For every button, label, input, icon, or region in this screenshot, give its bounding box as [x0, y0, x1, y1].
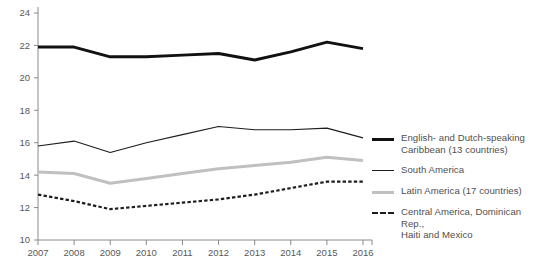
- legend-item-central-america: Central America, Dominican Rep.,Haiti an…: [372, 206, 536, 241]
- x-axis-tick-label: 2015: [316, 247, 337, 258]
- x-axis-tick-label: 2009: [100, 247, 121, 258]
- series-line: [38, 42, 363, 60]
- legend-label-caribbean-line1: English- and Dutch-speaking: [401, 132, 525, 143]
- x-axis-tick-label: 2014: [280, 247, 301, 258]
- y-axis-tick-label: 10: [19, 234, 30, 245]
- legend-swatch-caribbean-icon: [372, 133, 394, 145]
- legend-label-south-america: South America: [401, 164, 464, 176]
- legend-label-central-america-line2: Haiti and Mexico: [401, 229, 473, 240]
- x-axis-tick-label: 2016: [352, 247, 373, 258]
- legend-swatch-latin-america-icon: [372, 186, 394, 198]
- x-axis-tick-label: 2011: [172, 247, 192, 258]
- legend-label-latin-america: Latin America (17 countries): [401, 185, 522, 197]
- y-axis-tick-label: 18: [19, 105, 30, 116]
- data-series-group: [38, 42, 363, 209]
- y-axis-tick-label: 20: [19, 72, 30, 83]
- legend-label-caribbean: English- and Dutch-speakingCaribbean (13…: [401, 132, 525, 155]
- line-chart: 1012141618202224 20072008200920102011201…: [0, 0, 536, 271]
- legend-label-central-america-line1: Central America, Dominican Rep.,: [401, 206, 521, 229]
- legend-label-caribbean-line2: Caribbean (13 countries): [401, 144, 508, 155]
- legend-swatch-south-america-icon: [372, 165, 394, 177]
- y-axis-tick-label: 22: [19, 40, 30, 51]
- series-line: [38, 127, 363, 153]
- series-line: [38, 182, 363, 210]
- legend-label-central-america: Central America, Dominican Rep.,Haiti an…: [401, 206, 536, 241]
- y-axis-tick-label: 14: [19, 170, 30, 181]
- y-axis-tick-label: 12: [19, 202, 30, 213]
- legend-item-latin-america: Latin America (17 countries): [372, 185, 536, 197]
- y-axis: 1012141618202224: [19, 7, 38, 245]
- x-axis-tick-label: 2012: [208, 247, 229, 258]
- x-axis-tick-label: 2013: [244, 247, 265, 258]
- legend-item-south-america: South America: [372, 164, 536, 176]
- y-axis-tick-label: 16: [19, 137, 30, 148]
- y-axis-tick-label: 24: [19, 7, 30, 18]
- x-axis-tick-label: 2010: [136, 247, 157, 258]
- legend: English- and Dutch-speakingCaribbean (13…: [372, 132, 536, 250]
- x-axis-tick-label: 2008: [64, 247, 85, 258]
- x-axis-tick-label: 2007: [27, 247, 48, 258]
- series-line: [38, 157, 363, 183]
- legend-swatch-central-america-icon: [372, 207, 394, 219]
- x-axis: 2007200820092010201120122013201420152016: [27, 240, 373, 258]
- legend-item-caribbean: English- and Dutch-speakingCaribbean (13…: [372, 132, 536, 155]
